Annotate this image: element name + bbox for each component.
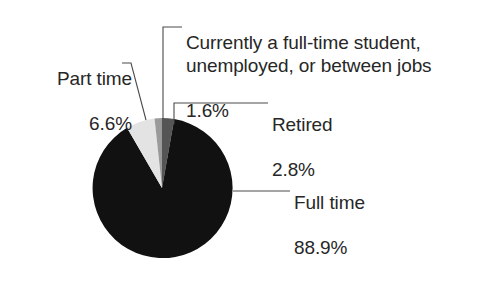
slice-label-part-time-value: 6.6%	[16, 113, 132, 135]
slice-label-full-time: Full time 88.9%	[294, 170, 464, 282]
slice-label-student-name: Currently a full-time student, unemploye…	[186, 32, 466, 77]
pie-chart-figure: Part time 6.6% Currently a full-time stu…	[0, 0, 477, 283]
leader-line-student	[163, 27, 182, 119]
slice-label-full-time-value: 88.9%	[294, 237, 464, 259]
slice-label-full-time-name: Full time	[294, 192, 464, 214]
slice-label-retired-name: Retired	[272, 114, 452, 136]
slice-label-part-time: Part time 6.6%	[16, 46, 132, 158]
slice-label-part-time-name: Part time	[16, 68, 132, 90]
